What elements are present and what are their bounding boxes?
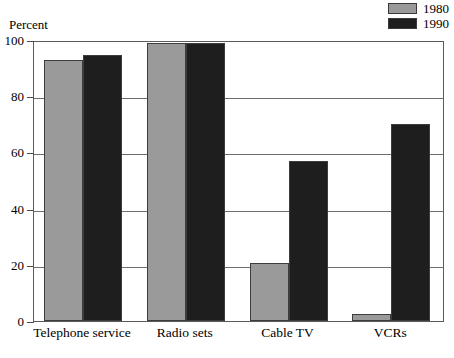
- plot-area: [33, 41, 444, 322]
- x-axis-labels: Telephone serviceRadio setsCable TVVCRs: [0, 324, 454, 346]
- y-tick-mark-0: [27, 322, 34, 323]
- legend-item-1990: 1990: [388, 17, 449, 30]
- bar: [147, 43, 186, 321]
- legend-swatch-1980: [388, 3, 417, 14]
- x-axis-label-vcrs: VCRs: [315, 324, 454, 341]
- legend-item-1980: 1980: [388, 2, 449, 15]
- bar: [250, 263, 289, 321]
- y-tick-label-20: 20: [0, 259, 24, 272]
- bar: [186, 43, 225, 321]
- legend-swatch-1990: [388, 18, 417, 29]
- chart-legend: 1980 1990: [388, 2, 449, 30]
- legend-label-1990: 1990: [423, 17, 449, 30]
- bar: [83, 55, 122, 321]
- y-tick-label-80: 80: [0, 90, 24, 103]
- bar-group: [34, 42, 443, 321]
- bar: [289, 161, 328, 321]
- y-tick-label-100: 100: [0, 34, 24, 47]
- y-axis-title: Percent: [9, 18, 48, 32]
- y-tick-label-40: 40: [0, 203, 24, 216]
- bar: [391, 124, 430, 321]
- y-tick-label-60: 60: [0, 146, 24, 159]
- bar: [352, 314, 391, 321]
- legend-label-1980: 1980: [423, 2, 449, 15]
- bar: [44, 60, 83, 321]
